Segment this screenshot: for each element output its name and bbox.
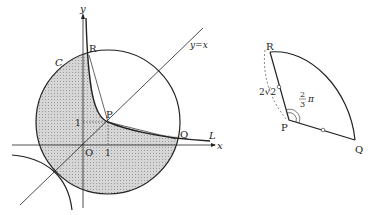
equal-mark-pr xyxy=(277,85,281,89)
curve-label: L xyxy=(208,130,216,141)
circle-label: C xyxy=(55,57,63,68)
x-axis-arrow-icon xyxy=(211,143,216,147)
angle-numerator: 2 xyxy=(300,90,305,99)
x-axis-label: x xyxy=(217,140,223,151)
point-q-label-right: Q xyxy=(355,144,363,155)
length-label: 2√2 xyxy=(259,87,276,97)
point-r-label: R xyxy=(89,43,97,54)
equal-mark-pq xyxy=(321,128,325,132)
point-r-label-right: R xyxy=(266,41,274,52)
diagram: y x O y=x C L R P Q 1 1 R P Q 2√2 2 3 π xyxy=(0,0,375,215)
right-figure: R P Q 2√2 2 3 π xyxy=(259,41,363,155)
angle-pi: π xyxy=(307,94,315,104)
line-label: y=x xyxy=(189,40,208,50)
point-q-label: Q xyxy=(180,129,188,140)
length-brace xyxy=(264,50,287,120)
tick-x-label: 1 xyxy=(105,148,111,158)
point-p-label: P xyxy=(106,109,113,120)
origin-label: O xyxy=(85,147,93,158)
angle-denominator: 3 xyxy=(300,100,305,109)
point-p-label-right: P xyxy=(281,122,288,133)
y-axis-label: y xyxy=(79,3,86,14)
shaded-region xyxy=(0,0,230,215)
left-figure: y x O y=x C L R P Q 1 1 xyxy=(0,0,230,215)
tick-y-label: 1 xyxy=(75,118,81,128)
